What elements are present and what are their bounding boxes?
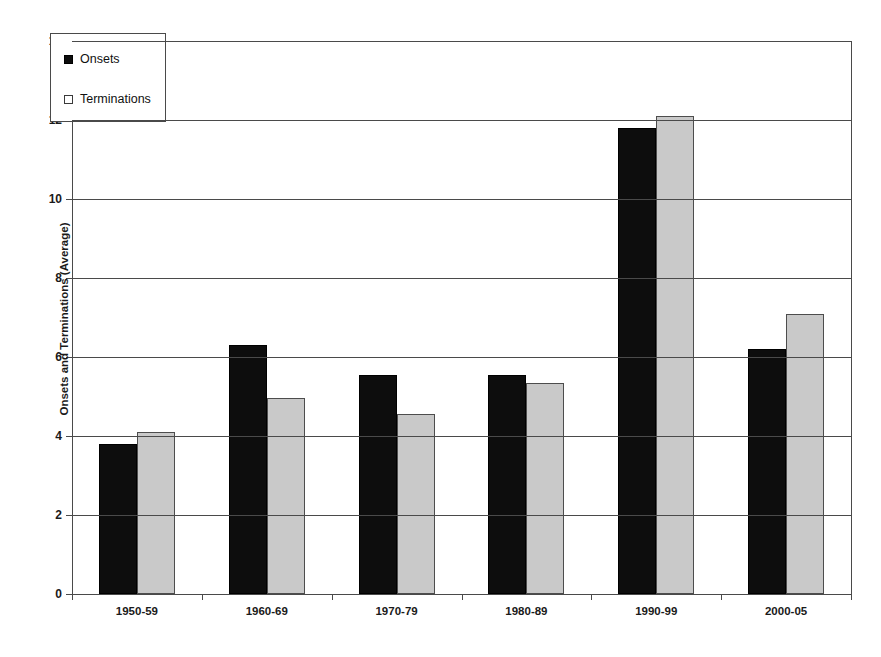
bar-terminations-1990-99 bbox=[656, 116, 694, 594]
bar-terminations-1950-59 bbox=[137, 432, 175, 594]
legend-swatch-terminations bbox=[64, 95, 73, 104]
bar-onsets-1990-99 bbox=[618, 128, 656, 594]
bar-onsets-1970-79 bbox=[359, 375, 397, 594]
legend-item-onsets: Onsets bbox=[64, 53, 120, 66]
legend-label-onsets: Onsets bbox=[80, 53, 120, 66]
y-axis-title: Onsets and Terminations (Average) bbox=[58, 223, 70, 416]
chart-legend: Onsets Terminations bbox=[50, 33, 166, 122]
x-tick-label: 1950-59 bbox=[87, 606, 187, 618]
bar-onsets-1980-89 bbox=[488, 375, 526, 594]
x-tick-mark bbox=[332, 594, 333, 600]
x-tick-label: 1980-89 bbox=[476, 606, 576, 618]
y-tick-label: 0 bbox=[28, 588, 62, 600]
bar-terminations-2000-05 bbox=[786, 314, 824, 594]
gridline bbox=[72, 278, 851, 279]
x-tick-mark bbox=[851, 594, 852, 600]
bar-chart-figure: 02468101214 Onsets and Terminations (Ave… bbox=[0, 0, 881, 657]
y-tick-label: 10 bbox=[28, 193, 62, 205]
legend-swatch-onsets bbox=[64, 55, 73, 64]
bar-terminations-1960-69 bbox=[267, 398, 305, 594]
x-tick-label: 2000-05 bbox=[736, 606, 836, 618]
y-tick-label: 8 bbox=[28, 272, 62, 284]
x-tick-mark bbox=[462, 594, 463, 600]
bar-terminations-1970-79 bbox=[397, 414, 435, 594]
x-tick-mark bbox=[202, 594, 203, 600]
plot-right-border bbox=[851, 41, 852, 594]
y-tick-label: 2 bbox=[28, 509, 62, 521]
bar-onsets-1950-59 bbox=[99, 444, 137, 594]
y-tick-label: 4 bbox=[28, 430, 62, 442]
x-tick-label: 1970-79 bbox=[347, 606, 447, 618]
plot-area: Onsets and Terminations (Average) Years bbox=[72, 41, 851, 594]
bar-terminations-1980-89 bbox=[526, 383, 564, 594]
gridline bbox=[72, 41, 851, 42]
gridline bbox=[72, 515, 851, 516]
x-tick-mark bbox=[591, 594, 592, 600]
x-tick-mark bbox=[721, 594, 722, 600]
x-tick-label: 1990-99 bbox=[606, 606, 706, 618]
bar-onsets-1960-69 bbox=[229, 345, 267, 594]
x-tick-mark bbox=[72, 594, 73, 600]
x-tick-label: 1960-69 bbox=[217, 606, 317, 618]
gridline bbox=[72, 120, 851, 121]
gridline bbox=[72, 199, 851, 200]
y-tick-label: 6 bbox=[28, 351, 62, 363]
legend-item-terminations: Terminations bbox=[64, 93, 151, 106]
gridline bbox=[72, 357, 851, 358]
legend-label-terminations: Terminations bbox=[80, 93, 151, 106]
gridline bbox=[72, 436, 851, 437]
bar-onsets-2000-05 bbox=[748, 349, 786, 594]
